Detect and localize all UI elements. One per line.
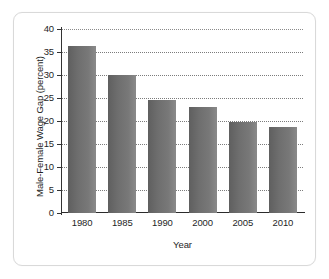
bar-chart: 0510152025303540 19801985199020002005201… [14, 13, 317, 267]
gridline [62, 98, 303, 99]
gridline [62, 29, 303, 30]
y-axis-tick [57, 29, 62, 30]
x-axis-tick-label: 1985 [100, 218, 144, 228]
gridline [62, 121, 303, 122]
gridline [62, 167, 303, 168]
y-axis-tick [57, 52, 62, 53]
y-axis-tick [57, 167, 62, 168]
bar [189, 107, 217, 213]
y-axis-tick [57, 144, 62, 145]
x-axis-tick-label: 2010 [261, 218, 305, 228]
bar [148, 100, 176, 213]
gridline [62, 190, 303, 191]
x-axis-tick-label: 1980 [60, 218, 104, 228]
y-axis-tick [57, 121, 62, 122]
y-axis-tick [57, 213, 62, 214]
gridline [62, 75, 303, 76]
bar [108, 75, 136, 213]
bar [269, 127, 297, 213]
y-axis-title: Male-Female Wage Gap (percent) [34, 32, 45, 222]
bar [229, 122, 257, 213]
y-axis-tick [57, 98, 62, 99]
x-axis-tick-label: 1990 [140, 218, 184, 228]
gridline [62, 144, 303, 145]
x-axis-tick-label: 2005 [221, 218, 265, 228]
bar [68, 46, 96, 213]
chart-panel: 0510152025303540 19801985199020002005201… [13, 12, 316, 266]
y-axis-tick [57, 75, 62, 76]
gridline [62, 52, 303, 53]
x-axis-tick-label: 2000 [181, 218, 225, 228]
y-axis-tick [57, 190, 62, 191]
x-axis-title: Year [62, 239, 303, 250]
